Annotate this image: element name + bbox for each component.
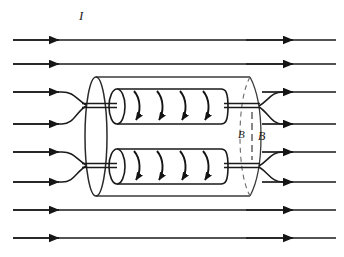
- flux-label-outer: B: [258, 129, 266, 143]
- diagram-canvas: I B B: [0, 0, 344, 257]
- upper-coil-left-cap: [109, 89, 125, 124]
- field-line-converging: [13, 106, 86, 124]
- field-line-converging: [13, 152, 86, 165]
- flux-label-inner: B: [238, 128, 245, 140]
- lower-coil-body: [117, 149, 228, 184]
- field-line-funnel-left-lower: [13, 152, 86, 182]
- field-line-converging: [13, 166, 86, 182]
- lower-coil: [82, 149, 260, 184]
- field-line-diverging: [259, 152, 336, 166]
- field-line-diverging: [259, 107, 336, 124]
- upper-coil-body: [117, 89, 228, 124]
- current-label: I: [78, 8, 84, 23]
- field-line-converging: [13, 92, 86, 105]
- lower-coil-left-cap: [109, 149, 125, 184]
- physics-diagram-figure: I B B: [0, 0, 344, 257]
- upper-coil: [82, 89, 260, 124]
- field-line-funnel-left-upper: [13, 92, 86, 124]
- field-line-group-bottom: [13, 210, 336, 238]
- outer-cylinder-left-ellipse: [85, 77, 107, 196]
- field-line-group-top: [13, 40, 336, 64]
- field-line-diverging: [259, 92, 336, 106]
- field-line-funnel-right-upper: [259, 92, 336, 124]
- field-line-diverging: [259, 167, 336, 182]
- field-line-funnel-right-lower: [259, 152, 336, 182]
